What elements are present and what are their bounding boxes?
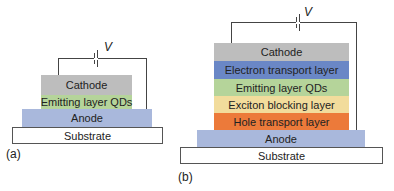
wire-b-left (231, 22, 232, 43)
wire-b-top (231, 22, 357, 23)
cathode-layer-b: Cathode (214, 43, 349, 61)
exciton-blocking-layer: Exciton blocking layer (214, 96, 349, 113)
wire-a-right (146, 58, 147, 109)
wire-a-left (58, 58, 59, 75)
cathode-layer-a: Cathode (41, 75, 132, 95)
substrate-layer-a: Substrate (12, 127, 163, 144)
hole-transport-layer: Hole transport layer (214, 113, 349, 130)
voltage-label-a: V (104, 40, 112, 54)
voltage-label-b: V (304, 5, 312, 19)
panel-a-label: (a) (6, 147, 21, 161)
substrate-layer-b: Substrate (180, 147, 383, 164)
wire-a-top (58, 58, 147, 59)
wire-b-right (356, 22, 357, 130)
anode-layer-a: Anode (22, 109, 152, 127)
panel-b-label: (b) (178, 170, 193, 184)
emitting-layer-b: Emitting layer QDs (214, 79, 349, 96)
electron-transport-layer: Electron transport layer (214, 61, 349, 79)
anode-layer-b: Anode (197, 130, 365, 147)
emitting-layer-a: Emitting layer QDs (41, 95, 132, 109)
